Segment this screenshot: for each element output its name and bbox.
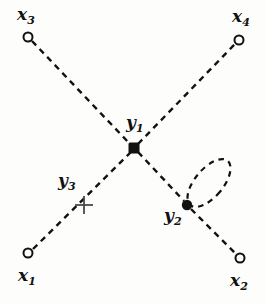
node-label-y1-sub: 1 (136, 122, 144, 135)
node-label-y3-main: y (58, 170, 68, 190)
node-label-x2-main: x (230, 270, 240, 290)
diagram-svg (0, 0, 266, 305)
node-label-y3: y3 (58, 172, 76, 189)
node-label-x4: x4 (232, 8, 250, 25)
node-label-x3-sub: 3 (27, 14, 35, 27)
edge-x1-y1 (33, 152, 131, 249)
node-label-x3-main: x (17, 4, 27, 24)
node-label-y2-sub: 2 (174, 215, 182, 228)
node-y3-marker[interactable] (75, 196, 93, 214)
node-x3-marker[interactable] (24, 33, 33, 42)
node-label-y1: y1 (126, 114, 144, 131)
node-label-y1-main: y (126, 112, 136, 132)
edge-y2-x2 (191, 209, 236, 254)
node-label-x4-sub: 4 (242, 16, 250, 29)
node-label-x2: x2 (230, 272, 248, 289)
edge-x3-y1 (32, 41, 130, 144)
node-x2-marker[interactable] (236, 254, 245, 263)
node-label-x2-sub: 2 (240, 280, 248, 293)
node-label-y2: y2 (164, 207, 182, 224)
edge-y1-y2 (138, 152, 184, 201)
node-x1-marker[interactable] (24, 249, 33, 258)
node-y2-marker[interactable] (182, 200, 192, 210)
node-label-x1-sub: 1 (28, 275, 36, 288)
node-label-y3-sub: 3 (68, 180, 76, 193)
node-label-x4-main: x (232, 6, 242, 26)
node-label-y2-main: y (164, 205, 174, 225)
node-x4-marker[interactable] (235, 36, 244, 45)
node-y1-marker[interactable] (129, 143, 140, 154)
node-label-x3: x3 (17, 6, 35, 23)
diagram-canvas: x3 x4 x1 x2 y1 y2 y3 (0, 0, 266, 305)
node-label-x1: x1 (18, 267, 36, 284)
node-label-x1-main: x (18, 265, 28, 285)
edge-y1-x4 (138, 44, 235, 144)
